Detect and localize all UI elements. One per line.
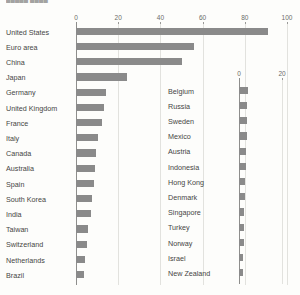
category-label: Denmark	[168, 193, 197, 202]
x-axis-tick-label: 100	[282, 14, 293, 21]
x-axis-tick-mark	[160, 22, 161, 24]
category-label: Hong Kong	[168, 178, 204, 187]
bar	[239, 178, 245, 185]
category-label: United Kingdom	[6, 104, 57, 113]
bar	[76, 180, 94, 187]
category-label: Taiwan	[6, 225, 28, 234]
bar	[76, 271, 84, 278]
category-label: Israel	[168, 254, 186, 263]
category-label: Switzerland	[6, 240, 43, 249]
category-label: Brazil	[6, 271, 24, 280]
x-axis-tick-label: 20	[278, 70, 285, 77]
bar	[239, 208, 244, 215]
x-axis-tick-label: 60	[199, 14, 206, 21]
bar	[239, 193, 245, 200]
x-axis-tick-mark	[203, 22, 204, 24]
gridline	[287, 24, 288, 285]
bar	[76, 165, 95, 172]
x-axis-tick-label: 80	[241, 14, 248, 21]
bar	[239, 224, 244, 231]
x-axis-tick-mark	[282, 78, 283, 80]
bar	[239, 254, 243, 261]
category-label: Japan	[6, 73, 26, 82]
bar	[76, 58, 182, 65]
bar	[239, 102, 247, 109]
gridline	[282, 80, 283, 284]
category-label: France	[6, 119, 28, 128]
x-axis-tick-label: 0	[74, 14, 78, 21]
clipped-title: █████ ████	[6, 0, 48, 2]
category-label: New Zealand	[168, 269, 210, 278]
chart-page: █████ ████ 020406080100United StatesEuro…	[0, 0, 300, 295]
category-label: China	[6, 58, 25, 67]
x-axis-tick-label: 40	[157, 14, 164, 21]
category-label: Belgium	[168, 87, 194, 96]
x-axis-tick-label: 0	[237, 70, 241, 77]
category-label: Australia	[6, 164, 34, 173]
bar	[76, 89, 106, 96]
category-label: Italy	[6, 134, 19, 143]
bar	[76, 28, 268, 35]
x-axis-tick-mark	[118, 22, 119, 24]
bar	[76, 256, 85, 263]
category-label: Mexico	[168, 132, 191, 141]
category-label: South Korea	[6, 195, 46, 204]
category-label: Singapore	[168, 208, 201, 217]
bar	[76, 119, 102, 126]
bar	[239, 117, 247, 124]
category-label: Turkey	[168, 223, 190, 232]
x-axis-tick-label: 20	[115, 14, 122, 21]
category-label: Austria	[168, 147, 190, 156]
bar	[76, 134, 98, 141]
bar	[76, 241, 87, 248]
category-label: Norway	[168, 239, 192, 248]
bar	[239, 148, 246, 155]
bar	[239, 132, 247, 139]
bar	[76, 104, 104, 111]
bar	[76, 43, 194, 50]
bar	[239, 87, 248, 94]
bar	[239, 269, 243, 276]
x-axis-tick-mark	[287, 22, 288, 24]
category-label: India	[6, 210, 22, 219]
bar	[76, 225, 88, 232]
category-label: United States	[6, 28, 49, 37]
bar	[76, 149, 96, 156]
bar	[76, 210, 91, 217]
category-label: Indonesia	[168, 163, 199, 172]
bar	[76, 195, 92, 202]
category-label: Russia	[168, 102, 190, 111]
bar	[239, 163, 246, 170]
x-axis-tick-mark	[245, 22, 246, 24]
bar	[76, 73, 127, 80]
gridline	[203, 24, 204, 285]
bar	[239, 239, 244, 246]
category-label: Germany	[6, 88, 36, 97]
category-label: Canada	[6, 149, 31, 158]
category-label: Netherlands	[6, 256, 45, 265]
category-label: Euro area	[6, 43, 38, 52]
category-label: Sweden	[168, 117, 194, 126]
category-label: Spain	[6, 180, 24, 189]
